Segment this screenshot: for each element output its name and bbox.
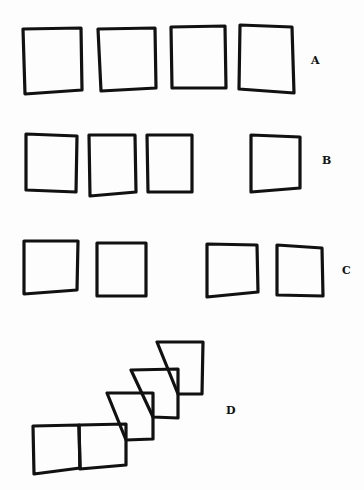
square bbox=[207, 244, 258, 297]
row-b bbox=[26, 134, 300, 196]
square bbox=[171, 26, 226, 88]
square bbox=[79, 424, 126, 469]
row-label: B bbox=[322, 154, 331, 167]
row-label: D bbox=[226, 404, 236, 417]
square bbox=[26, 134, 77, 192]
row-a bbox=[23, 25, 294, 94]
square bbox=[33, 425, 80, 474]
square bbox=[24, 241, 78, 294]
row-label: C bbox=[342, 264, 351, 277]
square bbox=[239, 25, 294, 93]
row-d bbox=[33, 342, 203, 474]
diagram-canvas: ABCD bbox=[0, 0, 364, 490]
row-label: A bbox=[311, 54, 320, 67]
squares-drawing bbox=[0, 0, 364, 490]
square bbox=[251, 135, 300, 192]
square bbox=[89, 135, 136, 196]
square bbox=[277, 245, 323, 296]
square bbox=[23, 28, 82, 94]
row-c bbox=[24, 241, 323, 297]
square bbox=[97, 243, 146, 296]
square bbox=[98, 28, 156, 91]
square bbox=[147, 135, 192, 192]
